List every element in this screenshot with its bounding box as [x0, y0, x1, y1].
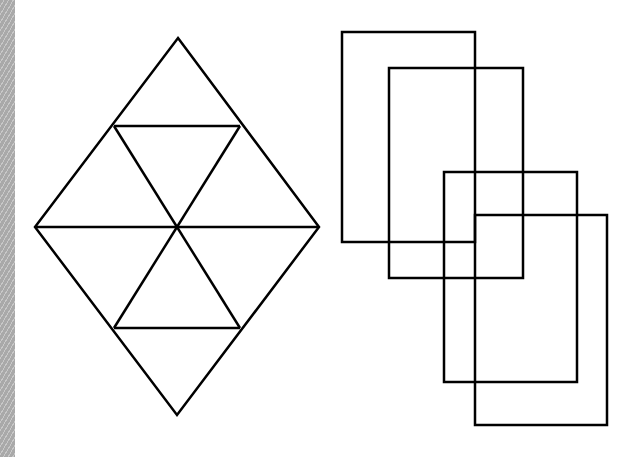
- rectangle-4: [475, 215, 607, 425]
- overlapping-rectangles: [342, 32, 607, 425]
- rectangle-1: [342, 32, 475, 242]
- figure-canvas: [0, 0, 631, 457]
- subdivided-diamond: [35, 38, 319, 415]
